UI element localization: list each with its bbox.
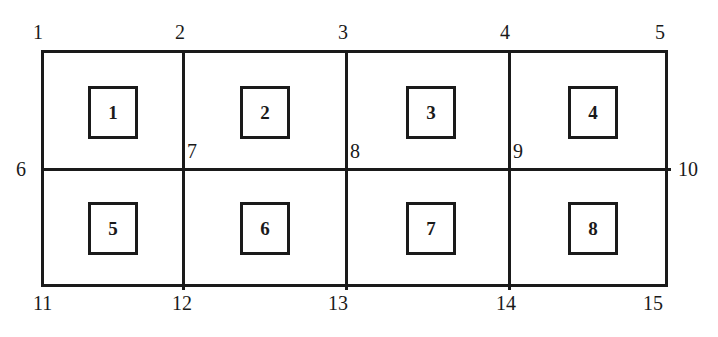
clipped-header-strip — [0, 0, 718, 12]
node-label-5: 5 — [655, 22, 665, 42]
node-label-3: 3 — [338, 22, 348, 42]
node-label-14: 14 — [496, 293, 516, 313]
element-label: 3 — [426, 103, 436, 122]
node-label-10: 10 — [678, 159, 698, 179]
node-label-9: 9 — [513, 141, 523, 161]
element-box: 4 — [568, 86, 618, 139]
element-label: 5 — [108, 219, 118, 238]
node-label-4: 4 — [500, 22, 510, 42]
element-box: 1 — [88, 86, 138, 139]
node-label-6: 6 — [16, 159, 26, 179]
element-label: 4 — [588, 103, 598, 122]
element-label: 1 — [108, 103, 118, 122]
element-box: 6 — [240, 202, 290, 255]
node-label-7: 7 — [187, 141, 197, 161]
mesh-diagram: 1 2 3 4 5 6 7 8 1 2 3 4 5 6 7 8 9 10 11 … — [0, 0, 718, 337]
element-box: 2 — [240, 86, 290, 139]
node-label-2: 2 — [175, 22, 185, 42]
node-label-8: 8 — [350, 141, 360, 161]
grid-divider-horizontal-1 — [41, 168, 671, 171]
element-box: 8 — [568, 202, 618, 255]
element-label: 8 — [588, 219, 598, 238]
element-label: 6 — [260, 219, 270, 238]
element-label: 7 — [426, 219, 436, 238]
element-box: 3 — [406, 86, 456, 139]
element-box: 5 — [88, 202, 138, 255]
node-label-12: 12 — [172, 293, 192, 313]
element-box: 7 — [406, 202, 456, 255]
node-label-1: 1 — [33, 22, 43, 42]
node-label-11: 11 — [33, 293, 52, 313]
node-label-13: 13 — [328, 293, 348, 313]
element-label: 2 — [260, 103, 270, 122]
node-label-15: 15 — [643, 293, 663, 313]
